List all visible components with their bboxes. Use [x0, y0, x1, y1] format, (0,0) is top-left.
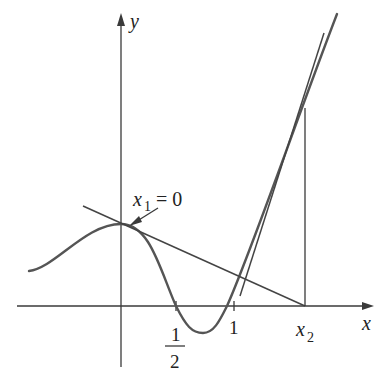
svg-text:1: 1 — [171, 324, 181, 345]
svg-text:2: 2 — [170, 351, 180, 372]
y-axis-label: y — [128, 10, 139, 33]
arrowhead-icon — [129, 216, 142, 226]
x2-label: x 2 — [295, 318, 314, 345]
tangent-line-x1 — [83, 206, 305, 306]
half-label: 1 2 — [165, 324, 185, 372]
svg-text:2: 2 — [307, 330, 314, 345]
x-axis-arrow-icon — [362, 302, 374, 310]
svg-text:= 0: = 0 — [151, 188, 182, 210]
x1-label: x 1 = 0 — [132, 188, 182, 214]
newton-method-diagram: y x x 1 = 0 1 2 1 x 2 — [0, 0, 388, 389]
function-curve — [29, 14, 337, 333]
one-label: 1 — [229, 317, 239, 338]
svg-text:x: x — [132, 188, 142, 210]
x-axis — [17, 302, 374, 310]
y-axis — [117, 13, 125, 367]
y-axis-arrow-icon — [117, 13, 125, 26]
x-axis-label: x — [361, 312, 371, 334]
tangent-line-x2 — [240, 33, 324, 296]
svg-text:1: 1 — [144, 199, 151, 214]
svg-text:x: x — [295, 318, 305, 340]
